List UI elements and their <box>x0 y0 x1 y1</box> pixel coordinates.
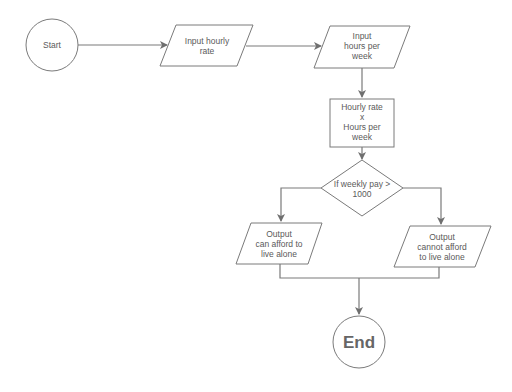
end-node[interactable]: End <box>333 316 385 368</box>
output-yes-label-line2: can afford to <box>255 239 302 249</box>
edge-decision-to-output-yes <box>281 188 321 221</box>
input-hours-label-line2: hours per <box>344 41 380 51</box>
edge-output-yes-merge <box>280 264 359 278</box>
output-yes-label-line3: live alone <box>261 249 297 259</box>
decision-label-line2: 1000 <box>353 189 372 199</box>
input-rate-label-line1: Input hourly <box>185 36 230 46</box>
compute-weekly-pay-node[interactable]: Hourly rate x Hours per week <box>330 99 394 147</box>
compute-label-line3: Hours per <box>343 122 380 132</box>
compute-label-line4: week <box>351 132 373 142</box>
edge-output-no-merge <box>359 267 439 278</box>
input-hourly-rate-node[interactable]: Input hourly rate <box>160 25 253 66</box>
end-label: End <box>343 333 375 352</box>
compute-label-line1: Hourly rate <box>341 102 383 112</box>
start-label: Start <box>43 40 62 50</box>
output-no-label-line1: Output <box>429 232 455 242</box>
input-rate-label-line2: rate <box>200 46 215 56</box>
flowchart-canvas: Start Input hourly rate Input hours per … <box>0 0 512 392</box>
output-cannot-afford-node[interactable]: Output cannot afford to live alone <box>394 226 491 267</box>
decision-node[interactable]: If weekly pay > 1000 <box>321 160 403 216</box>
input-hours-label-line1: Input <box>353 31 373 41</box>
input-hours-label-line3: week <box>351 51 373 61</box>
output-no-label-line2: cannot afford <box>417 242 467 252</box>
output-can-afford-node[interactable]: Output can afford to live alone <box>236 223 322 264</box>
output-no-label-line3: to live alone <box>419 252 465 262</box>
edge-decision-to-output-no <box>403 188 441 224</box>
decision-label-line1: If weekly pay > <box>334 179 390 189</box>
output-yes-label-line1: Output <box>266 229 292 239</box>
start-node[interactable]: Start <box>26 19 78 71</box>
input-hours-per-week-node[interactable]: Input hours per week <box>314 26 410 68</box>
